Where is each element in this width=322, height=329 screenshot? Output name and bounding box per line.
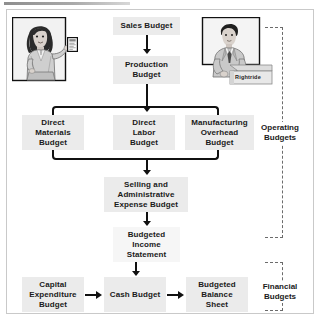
box-direct-labor-budget[interactable]: Direct Labor Budget xyxy=(113,115,175,150)
label-financial-budgets: Financial Budgets xyxy=(258,281,302,303)
arrowhead-sales-to-production xyxy=(143,49,151,54)
arrowhead-cash-to-balance xyxy=(178,291,184,299)
arrowhead-production-to-direct-labor xyxy=(143,107,151,112)
bracket-production-split xyxy=(52,106,219,115)
box-sales-budget[interactable]: Sales Budget xyxy=(113,17,180,35)
arrowhead-selling-to-income xyxy=(143,221,151,226)
diagram-page: Rightride Sales Budget Production Budget… xyxy=(0,0,322,329)
label-operating-budgets: Operating Budgets xyxy=(258,122,302,144)
bracket-three-budgets-merge xyxy=(52,150,219,160)
box-direct-materials-budget[interactable]: Direct Materials Budget xyxy=(22,115,84,150)
top-rule-decoration xyxy=(4,2,130,5)
connector-production-down xyxy=(146,84,148,108)
connector-selling-to-income xyxy=(146,212,148,221)
connector-sales-to-production xyxy=(146,35,148,49)
connector-merge-to-selling xyxy=(146,158,148,170)
box-manufacturing-overhead-budget[interactable]: Manufacturing Overhead Budget xyxy=(185,115,254,150)
presenter-illustration xyxy=(12,17,78,87)
connector-income-to-cash xyxy=(135,262,137,271)
arrowhead-merge-to-selling xyxy=(143,170,151,175)
counter-sign-label: Rightride xyxy=(235,74,261,80)
box-cash-budget[interactable]: Cash Budget xyxy=(104,277,166,312)
arrowhead-capital-to-cash xyxy=(96,291,102,299)
box-production-budget[interactable]: Production Budget xyxy=(113,56,180,84)
arrowhead-income-to-cash xyxy=(132,271,140,276)
box-selling-administrative-expense-budget[interactable]: Selling and Administrative Expense Budge… xyxy=(104,177,188,212)
box-budgeted-balance-sheet[interactable]: Budgeted Balance Sheet xyxy=(186,277,248,312)
box-capital-expenditure-budget[interactable]: Capital Expenditure Budget xyxy=(22,277,84,312)
box-budgeted-income-statement[interactable]: Budgeted Income Statement xyxy=(113,227,180,262)
